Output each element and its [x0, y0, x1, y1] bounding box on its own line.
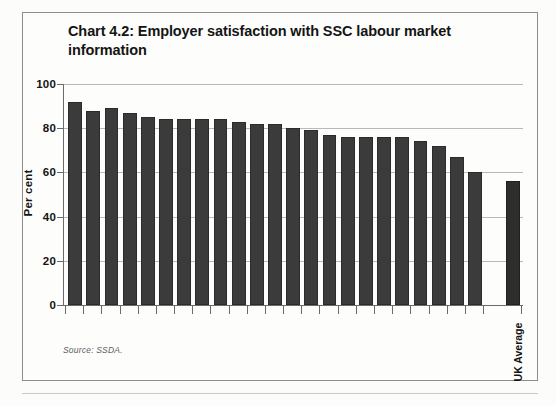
uk-average-label: UK Average [512, 323, 524, 382]
x-tick-9 [229, 305, 230, 314]
bar-7 [177, 119, 191, 305]
y-tick-40 [57, 217, 64, 218]
bar-19 [395, 137, 409, 305]
bars-group [64, 84, 523, 305]
source-note: Source: SSDA. [63, 345, 123, 355]
y-tick-80 [57, 128, 64, 129]
bar-14 [304, 130, 318, 305]
x-tick-7 [192, 305, 193, 314]
x-tick-23 [483, 305, 484, 314]
x-tick-14 [319, 305, 320, 314]
x-tick-19 [410, 305, 411, 314]
x-tick-10 [247, 305, 248, 314]
bar-23 [468, 172, 482, 305]
y-tick-60 [57, 172, 64, 173]
x-tick-11 [265, 305, 266, 314]
y-tick-label-100: 100 [22, 78, 56, 90]
x-tick-21 [447, 305, 448, 314]
bar-10 [232, 122, 246, 305]
x-tick-22 [465, 305, 466, 314]
x-tick-16 [356, 305, 357, 314]
bar-2 [86, 111, 100, 305]
y-tick-label-60: 60 [22, 166, 56, 178]
bar-uk-average [506, 181, 520, 305]
bar-18 [377, 137, 391, 305]
bar-13 [286, 128, 300, 305]
chart-title: Chart 4.2: Employer satisfaction with SS… [68, 22, 498, 60]
bar-1 [68, 102, 82, 305]
y-tick-label-0: 0 [22, 299, 56, 311]
x-tick-15 [338, 305, 339, 314]
bar-9 [214, 119, 228, 305]
plot-area: 020406080100 [63, 84, 523, 305]
x-tick-18 [392, 305, 393, 314]
bar-4 [123, 113, 137, 305]
x-tick-4 [138, 305, 139, 314]
chart-page: Chart 4.2: Employer satisfaction with SS… [0, 0, 556, 406]
bar-16 [341, 137, 355, 305]
y-tick-label-80: 80 [22, 122, 56, 134]
bar-11 [250, 124, 264, 305]
y-tick-label-20: 20 [22, 255, 56, 267]
y-tick-100 [57, 84, 64, 85]
x-tick-24 [521, 305, 522, 314]
x-tick-0 [65, 305, 66, 314]
bottom-rule [22, 393, 538, 394]
bar-12 [268, 124, 282, 305]
bar-6 [159, 119, 173, 305]
x-tick-12 [283, 305, 284, 314]
bar-3 [105, 108, 119, 305]
bar-21 [432, 146, 446, 305]
bar-22 [450, 157, 464, 305]
x-tick-3 [120, 305, 121, 314]
bar-5 [141, 117, 155, 305]
x-tick-17 [374, 305, 375, 314]
bar-17 [359, 137, 373, 305]
bar-15 [323, 135, 337, 305]
x-tick-6 [174, 305, 175, 314]
x-axis-ticks [63, 305, 522, 314]
x-tick-5 [156, 305, 157, 314]
x-tick-8 [210, 305, 211, 314]
x-tick-1 [83, 305, 84, 314]
x-tick-20 [429, 305, 430, 314]
x-tick-13 [301, 305, 302, 314]
y-tick-label-40: 40 [22, 211, 56, 223]
bar-8 [195, 119, 209, 305]
y-tick-20 [57, 261, 64, 262]
bar-20 [414, 141, 428, 305]
x-tick-2 [101, 305, 102, 314]
